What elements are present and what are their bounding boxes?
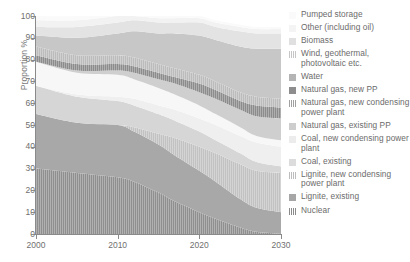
legend-label: Water [301,72,323,82]
legend-label: Coal, new condensing power plant [301,134,410,153]
legend-swatch [289,12,296,19]
legend-swatch [289,100,296,107]
legend-label: Natural gas, existing PP [301,121,391,131]
x-axis-line [35,234,282,235]
x-tick-label: 2010 [98,241,138,250]
stacked-area-chart: Proportion % 0102030405060708090100 2000… [0,0,410,262]
legend-swatch [289,172,296,179]
legend-item[interactable]: Lignite, new condensing power plant [289,170,410,189]
legend-label: Nuclear [301,206,330,216]
legend-item[interactable]: Natural gas, existing PP [289,121,410,131]
legend-swatch [289,51,296,58]
legend-item[interactable]: Coal, existing [289,157,410,167]
x-tick-mark [118,235,119,239]
x-tick-mark [281,235,282,239]
legend-item[interactable]: Pumped storage [289,10,410,20]
legend-label: Natural gas, new PP [301,85,378,95]
legend-label: Biomass [301,36,333,46]
x-tick-mark [36,235,37,239]
legend-item[interactable]: Biomass [289,36,410,46]
plot-area [36,16,281,234]
legend-item[interactable]: Other (including oil) [289,23,410,33]
x-tick-label: 2000 [16,241,56,250]
legend-item[interactable]: Natural gas, new PP [289,85,410,95]
chart-legend: Pumped storageOther (including oil)Bioma… [289,10,410,219]
legend-item[interactable]: Water [289,72,410,82]
legend-item[interactable]: Coal, new condensing power plant [289,134,410,153]
legend-label: Lignite, existing [301,192,359,202]
legend-item[interactable]: Wind, geothermal, photovoltaic etc. [289,49,410,68]
legend-label: Wind, geothermal, photovoltaic etc. [301,49,410,68]
x-tick-label: 2020 [179,241,219,250]
legend-label: Natural gas, new condensing power plant [301,98,410,117]
legend-label: Lignite, new condensing power plant [301,170,410,189]
legend-item[interactable]: Lignite, existing [289,192,410,202]
legend-label: Pumped storage [301,10,363,20]
legend-swatch [289,159,296,166]
legend-swatch [289,208,296,215]
legend-swatch [289,136,296,143]
x-tick-label: 2030 [261,241,301,250]
legend-item[interactable]: Nuclear [289,206,410,216]
legend-swatch [289,74,296,81]
legend-item[interactable]: Natural gas, new condensing power plant [289,98,410,117]
legend-swatch [289,38,296,45]
legend-swatch [289,87,296,94]
legend-swatch [289,194,296,201]
legend-label: Coal, existing [301,157,352,167]
x-tick-mark [199,235,200,239]
area-series-group [36,16,281,234]
legend-label: Other (including oil) [301,23,374,33]
legend-swatch [289,25,296,32]
legend-swatch [289,123,296,130]
